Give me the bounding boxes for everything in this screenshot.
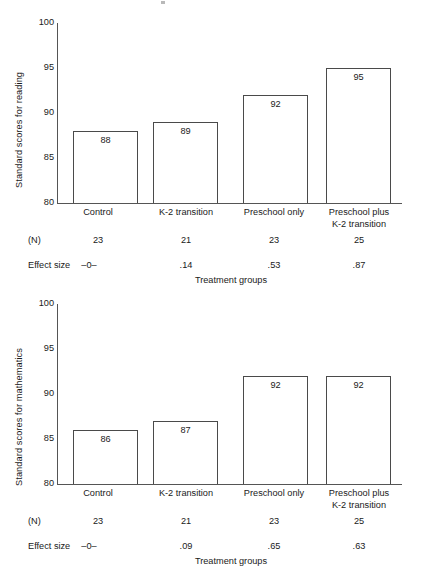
- y-tick-label: 90: [44, 389, 54, 398]
- effect-size-preschool-plus-k2: .87: [303, 261, 415, 270]
- plot-area-reading: 100 95 90 85 80 88 89 92 95: [57, 23, 402, 204]
- y-tick-label: 90: [44, 108, 54, 117]
- x-axis-title-reading: Treatment groups: [131, 276, 331, 285]
- y-tick-label: 100: [39, 299, 54, 308]
- bar-preschool-only: 92: [243, 95, 308, 203]
- plot-area-mathematics: 100 95 90 85 80 86 87 92 92: [57, 304, 402, 485]
- x-axis-line: [57, 203, 402, 204]
- y-tick-label: 85: [44, 434, 54, 443]
- x-category-label-preschool-plus-k2: Preschool plus K-2 transition: [303, 488, 415, 511]
- bar-value-label: 92: [244, 381, 307, 390]
- bar-value-label: 92: [244, 100, 307, 109]
- bar-value-label: 86: [74, 435, 137, 444]
- bar-value-label: 89: [154, 127, 217, 136]
- bar-preschool-only: 92: [243, 376, 308, 484]
- effect-size-preschool-plus-k2: .63: [303, 542, 415, 551]
- x-category-label-text: Preschool plus K-2 transition: [329, 207, 389, 229]
- n-value-preschool-plus-k2: 25: [303, 236, 415, 245]
- chart-mathematics: Standard scores for mathematics 100 95 9…: [0, 288, 427, 571]
- y-tick-label: 85: [44, 153, 54, 162]
- y-axis-line: [57, 304, 58, 485]
- bar-control: 86: [73, 430, 138, 484]
- bar-control: 88: [73, 131, 138, 203]
- x-category-label-text: Preschool plus K-2 transition: [329, 488, 389, 510]
- y-axis-line: [57, 23, 58, 204]
- bar-value-label: 95: [327, 73, 390, 82]
- n-row-label: (N): [28, 517, 41, 526]
- y-axis-title-reading: Standard scores for reading: [14, 72, 24, 188]
- bar-value-label: 88: [74, 136, 137, 145]
- x-axis-line: [57, 484, 402, 485]
- n-value-preschool-plus-k2: 25: [303, 517, 415, 526]
- n-row-label: (N): [28, 236, 41, 245]
- chart-reading: Standard scores for reading 100 95 90 85…: [0, 0, 427, 290]
- scan-artifact: [161, 1, 165, 4]
- effect-size-control: –0–: [49, 261, 129, 270]
- effect-size-control: –0–: [49, 542, 129, 551]
- y-tick-label: 100: [39, 18, 54, 27]
- bar-preschool-plus-k2: 92: [326, 376, 391, 484]
- y-axis-title-mathematics: Standard scores for mathematics: [14, 348, 24, 486]
- y-tick-label: 95: [44, 63, 54, 72]
- y-tick-label: 95: [44, 344, 54, 353]
- bar-k2-transition: 89: [153, 122, 218, 203]
- bar-value-label: 92: [327, 381, 390, 390]
- bar-k2-transition: 87: [153, 421, 218, 484]
- x-category-label-preschool-plus-k2: Preschool plus K-2 transition: [303, 207, 415, 230]
- bar-value-label: 87: [154, 426, 217, 435]
- x-axis-title-mathematics: Treatment groups: [131, 557, 331, 566]
- bar-preschool-plus-k2: 95: [326, 68, 391, 203]
